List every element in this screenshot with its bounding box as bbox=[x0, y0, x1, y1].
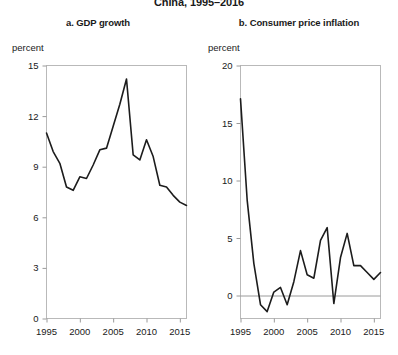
chart-consumer-price-inflation: 05101520 19952000200520102015 bbox=[0, 0, 398, 355]
chart-gdp-growth: 03691215 19952000200520102015 bbox=[0, 0, 398, 355]
y-axis-unit-label-left: percent bbox=[12, 42, 44, 53]
y-tick-label: 0 bbox=[227, 290, 232, 301]
x-tick-label: 2010 bbox=[136, 326, 157, 337]
y-tick-label: 6 bbox=[33, 212, 38, 223]
y-tick-label: 20 bbox=[222, 60, 233, 71]
right-x-tick-group: 19952000200520102015 bbox=[230, 319, 384, 337]
right-plot-frame bbox=[241, 66, 381, 319]
y-tick-label: 10 bbox=[222, 175, 233, 186]
figure-container: China, 1995–2016 a. GDP growth b. Consum… bbox=[0, 0, 398, 355]
right-series-line bbox=[241, 99, 381, 312]
x-tick-label: 2015 bbox=[169, 326, 190, 337]
panel-title-consumer-price-inflation: b. Consumer price inflation bbox=[200, 17, 398, 28]
x-tick-label: 2015 bbox=[363, 326, 384, 337]
y-tick-label: 15 bbox=[222, 118, 233, 129]
y-tick-label: 3 bbox=[33, 262, 38, 273]
y-tick-label: 15 bbox=[28, 60, 39, 71]
y-tick-label: 5 bbox=[227, 233, 232, 244]
x-tick-label: 2000 bbox=[69, 326, 90, 337]
x-tick-label: 2010 bbox=[330, 326, 351, 337]
left-plot-frame bbox=[47, 66, 187, 319]
x-tick-label: 2000 bbox=[263, 326, 284, 337]
right-y-tick-group: 05101520 bbox=[222, 60, 241, 301]
x-tick-label: 2005 bbox=[103, 326, 124, 337]
x-tick-label: 2005 bbox=[297, 326, 318, 337]
left-x-tick-group: 19952000200520102015 bbox=[36, 319, 190, 337]
x-tick-label: 1995 bbox=[230, 326, 251, 337]
figure-title: China, 1995–2016 bbox=[0, 0, 398, 8]
y-tick-label: 12 bbox=[28, 111, 39, 122]
left-plot-group: 03691215 19952000200520102015 bbox=[28, 60, 190, 337]
x-tick-label: 1995 bbox=[36, 326, 57, 337]
panel-title-gdp-growth: a. GDP growth bbox=[0, 17, 196, 28]
left-series-line bbox=[47, 79, 187, 206]
y-axis-unit-label-right: percent bbox=[208, 42, 240, 53]
y-tick-label: 9 bbox=[33, 161, 38, 172]
y-tick-label: 0 bbox=[33, 313, 38, 324]
left-y-tick-group: 03691215 bbox=[28, 60, 47, 324]
right-plot-group: 05101520 19952000200520102015 bbox=[222, 60, 384, 337]
